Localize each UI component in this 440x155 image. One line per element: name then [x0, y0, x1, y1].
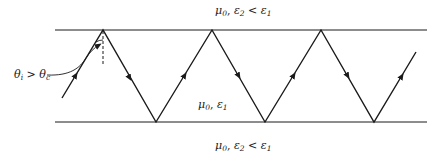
angle-condition-label: θi > θc — [14, 68, 51, 82]
top-region-label: μ0, ε2 < ε1 — [215, 4, 272, 18]
bottom-region-label: μ0, ε2 < ε1 — [215, 139, 272, 153]
core-region-label: μ0, ε1 — [198, 98, 228, 112]
waveguide-diagram: θi > θc μ0, ε2 < ε1 μ0, ε1 μ0, ε2 < ε1 — [0, 0, 440, 155]
light-ray — [62, 30, 416, 122]
